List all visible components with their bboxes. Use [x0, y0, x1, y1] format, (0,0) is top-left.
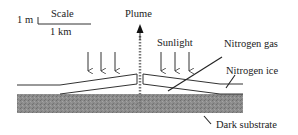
sunlight-arrows-right: [161, 52, 189, 71]
scale-horizontal-label: 1 km: [50, 26, 71, 38]
plume-arrow-icon: [137, 24, 144, 33]
nitrogen-ice-right: [143, 74, 243, 94]
dark-substrate-leader: [204, 116, 211, 124]
scale-title: Scale: [51, 8, 74, 20]
nitrogen-gas-leader: [168, 57, 222, 91]
plume-label: Plume: [125, 8, 152, 20]
geyser-diagram: 1 m Scale 1 km Plume Sunlight Nitrogen g…: [0, 0, 298, 135]
nitrogen-ice-label: Nitrogen ice: [226, 65, 278, 77]
sunlight-arrows-left: [88, 52, 115, 71]
nitrogen-gas-label: Nitrogen gas: [224, 38, 278, 50]
scale-vertical-label: 1 m: [17, 14, 33, 26]
dark-substrate-label: Dark substrate: [216, 119, 277, 131]
sunlight-label: Sunlight: [157, 37, 193, 49]
nitrogen-ice-left: [17, 74, 137, 94]
dark-substrate: [17, 94, 121, 113]
